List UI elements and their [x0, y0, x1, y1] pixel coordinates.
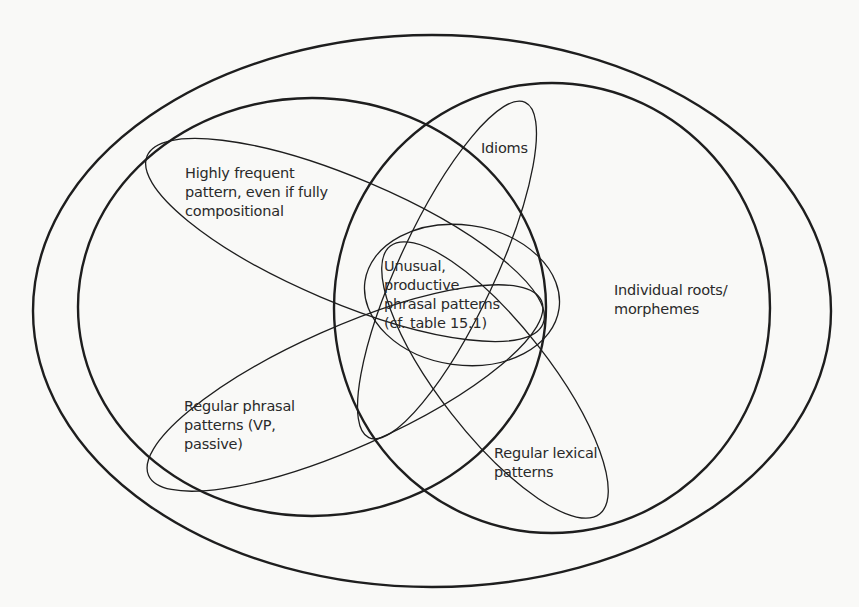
- label-regular-phrasal: Regular phrasal patterns (VP, passive): [184, 397, 295, 454]
- label-individual-roots: Individual roots/ morphemes: [614, 281, 727, 319]
- label-regular-lexical: Regular lexical patterns: [494, 444, 597, 482]
- label-idioms: Idioms: [481, 139, 528, 158]
- label-highly-frequent: Highly frequent pattern, even if fully c…: [185, 164, 328, 221]
- label-unusual: Unusual, productive phrasal patterns (cf…: [384, 257, 500, 333]
